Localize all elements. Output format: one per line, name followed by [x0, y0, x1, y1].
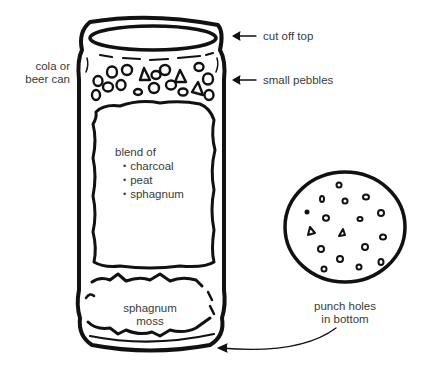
label-cut-off-top: cut off top — [263, 30, 313, 43]
blend-heading: blend of — [115, 145, 184, 159]
label-bottom-moss: sphagnum moss — [115, 302, 185, 328]
label-small-pebbles: small pebbles — [263, 74, 333, 87]
punch-holes — [306, 183, 387, 272]
pebbles-layer — [92, 63, 214, 100]
can-bottom-circle — [285, 172, 405, 282]
label-punch-holes: punch holes in bottom — [305, 300, 385, 326]
punch-line1: punch holes — [305, 300, 385, 313]
arrow-punch-holes — [220, 328, 336, 349]
blend-item-charcoal: charcoal — [123, 159, 184, 173]
label-can-line1: cola or — [20, 60, 70, 73]
label-can-line2: beer can — [20, 73, 70, 86]
cut-top-rim — [90, 26, 216, 50]
punch-line2: in bottom — [305, 313, 385, 326]
label-blend: blend of charcoal peat sphagnum — [115, 145, 184, 201]
blend-item-peat: peat — [123, 173, 184, 187]
blend-item-sphagnum: sphagnum — [123, 187, 184, 201]
moss-line2: moss — [115, 315, 185, 328]
label-can: cola or beer can — [20, 60, 70, 86]
moss-line1: sphagnum — [115, 302, 185, 315]
